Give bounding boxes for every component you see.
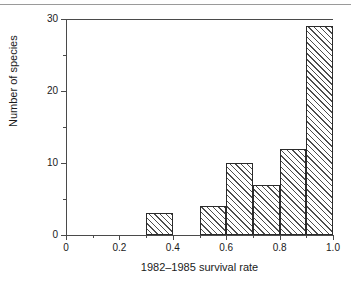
- x-axis-minor-tick: [146, 235, 147, 238]
- histogram-bar: [146, 213, 173, 235]
- y-axis-line: [66, 19, 67, 236]
- x-axis-minor-tick: [93, 235, 94, 238]
- histogram-bar: [226, 163, 253, 235]
- x-axis-minor-tick: [200, 235, 201, 238]
- histogram-bar: [253, 185, 280, 235]
- x-axis-tick-label: 0.6: [219, 243, 233, 253]
- histogram-bar: [306, 26, 333, 235]
- x-axis-tick-label: 0.4: [166, 243, 180, 253]
- y-axis-tick: [61, 163, 66, 164]
- y-axis-minor-tick: [63, 199, 66, 200]
- x-axis-minor-tick: [306, 235, 307, 238]
- histogram-figure: Number of species 010203000.20.40.60.81.…: [0, 0, 351, 296]
- y-axis-tick-label: 10: [47, 158, 58, 168]
- y-axis-tick: [61, 91, 66, 92]
- y-axis-tick-label: 20: [47, 86, 58, 96]
- x-axis-tick: [66, 235, 67, 240]
- x-axis-tick: [226, 235, 227, 240]
- y-axis-minor-tick: [63, 55, 66, 56]
- y-axis-tick-label: 0: [52, 230, 58, 240]
- x-axis-tick-label: 0.2: [112, 243, 126, 253]
- y-axis-minor-tick: [63, 127, 66, 128]
- histogram-bar: [280, 149, 307, 235]
- x-axis-tick-label: 0.8: [273, 243, 287, 253]
- histogram-bar: [200, 206, 227, 235]
- plot-frame-top: [66, 19, 333, 20]
- x-axis-label: 1982–1985 survival rate: [66, 262, 333, 273]
- x-axis-tick: [173, 235, 174, 240]
- x-axis-tick-label: 1.0: [326, 243, 340, 253]
- y-axis-tick-label: 30: [47, 14, 58, 24]
- x-axis-minor-tick: [253, 235, 254, 238]
- x-axis-tick: [280, 235, 281, 240]
- x-axis-tick-label: 0: [63, 243, 69, 253]
- y-axis-label: Number of species: [8, 35, 19, 127]
- x-axis-tick: [333, 235, 334, 240]
- x-axis-tick: [119, 235, 120, 240]
- plot-area: 010203000.20.40.60.81.0: [66, 19, 333, 235]
- y-axis-tick: [61, 19, 66, 20]
